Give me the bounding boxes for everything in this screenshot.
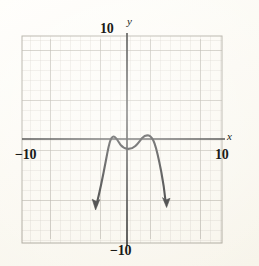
y-axis-name-label: y — [127, 16, 132, 27]
coordinate-plot — [0, 0, 259, 266]
x-axis-max-label: 10 — [215, 148, 229, 162]
x-axis-name-label: x — [227, 131, 232, 142]
y-axis-min-label: −10 — [110, 244, 131, 258]
graph-figure: 10 y −10 −10 10 x — [0, 0, 259, 266]
y-axis-max-label: 10 — [100, 22, 114, 36]
x-axis-min-label: −10 — [15, 148, 36, 162]
